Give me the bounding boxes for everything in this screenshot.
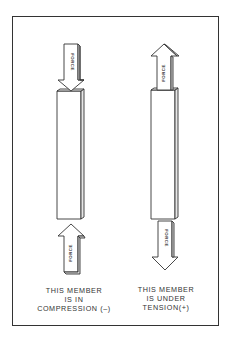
tension-member xyxy=(151,88,178,219)
force-label-left-top: FORCE xyxy=(70,53,75,71)
tension-caption: THIS MEMBER IS UNDER TENSION(+) xyxy=(128,285,204,312)
caption-line: THIS MEMBER xyxy=(33,286,115,295)
force-label-right-bottom: FORCE xyxy=(164,229,169,247)
force-label-right-top: FORCE xyxy=(161,64,166,82)
compression-caption: THIS MEMBER IS IN COMPRESSION (–) xyxy=(33,286,115,313)
caption-line: THIS MEMBER xyxy=(128,285,204,294)
caption-line: IS IN xyxy=(33,295,115,304)
caption-line: IS UNDER xyxy=(128,294,204,303)
force-label-left-bottom: FORCE xyxy=(68,244,73,262)
caption-line: COMPRESSION (–) xyxy=(33,304,115,313)
caption-line: TENSION(+) xyxy=(128,303,204,312)
compression-member xyxy=(57,89,84,219)
